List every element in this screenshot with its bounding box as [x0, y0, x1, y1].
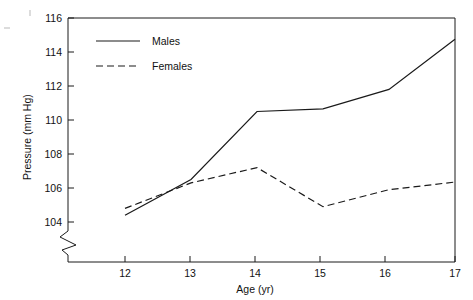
x-tick-label-12: 12 — [119, 267, 131, 279]
x-tick-label-13: 13 — [184, 267, 196, 279]
axis-frame — [60, 18, 455, 262]
y-axis-title: Pressure (mm Hg) — [21, 94, 33, 180]
registration-marks — [4, 10, 30, 28]
x-tick-label-15: 15 — [314, 267, 326, 279]
y-tick-label-116: 116 — [45, 12, 62, 24]
legend-label-males: Males — [152, 35, 180, 47]
y-tick-label-110: 110 — [45, 114, 62, 126]
y-tick-label-108: 108 — [44, 148, 62, 160]
y-tick-label-114: 114 — [45, 46, 62, 58]
legend-label-females: Females — [152, 60, 192, 72]
y-tick-label-112: 112 — [45, 80, 62, 92]
line-chart: 116 114 112 110 108 106 104 Pressure (mm… — [0, 0, 473, 300]
chart-figure: 116 114 112 110 108 106 104 Pressure (mm… — [0, 0, 473, 300]
x-tick-label-14: 14 — [249, 267, 261, 279]
y-tick-label-104: 104 — [44, 216, 62, 228]
x-axis-title: Age (yr) — [236, 283, 273, 295]
y-axis-ticks — [68, 18, 74, 222]
x-axis-tick-labels: 12 13 14 15 16 17 — [119, 267, 461, 279]
x-tick-label-16: 16 — [379, 267, 391, 279]
y-axis-break-mark — [60, 231, 76, 262]
y-tick-label-106: 106 — [44, 182, 62, 194]
chart-legend: Males Females — [96, 35, 192, 72]
x-tick-label-17: 17 — [449, 267, 461, 279]
x-axis-ticks — [125, 256, 455, 262]
y-axis-tick-labels: 116 114 112 110 108 106 104 — [44, 12, 62, 228]
